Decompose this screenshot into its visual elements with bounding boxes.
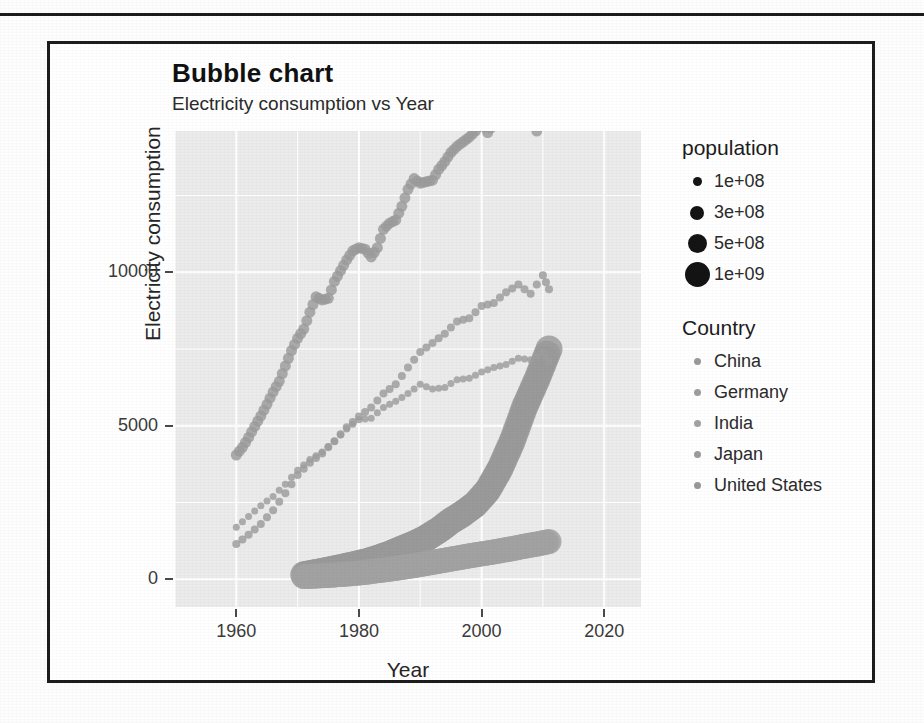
series-japan xyxy=(232,271,553,548)
x-tick-mark xyxy=(235,609,237,617)
x-tick-label: 2020 xyxy=(564,621,644,642)
population-dot-icon xyxy=(680,262,714,287)
legend-population: population 1e+083e+085e+081e+09 xyxy=(680,136,895,290)
y-tick-mark xyxy=(165,271,173,273)
y-tick-label: 0 xyxy=(70,568,158,589)
y-axis-title: Electricity consumption xyxy=(141,126,165,341)
legend-population-label: 1e+08 xyxy=(714,171,765,192)
legend-country-item[interactable]: Germany xyxy=(680,377,895,408)
x-tick-mark xyxy=(603,609,605,617)
population-dot-icon xyxy=(680,234,714,253)
x-tick-mark xyxy=(481,609,483,617)
legend-population-label: 3e+08 xyxy=(714,202,765,223)
x-tick-label: 2000 xyxy=(442,621,522,642)
legend-country-label: Germany xyxy=(714,382,788,403)
country-dot-icon xyxy=(680,451,714,458)
legend-country: Country ChinaGermanyIndiaJapanUnited Sta… xyxy=(680,316,895,501)
y-tick-label: 10000 xyxy=(70,261,158,282)
legend-population-label: 1e+09 xyxy=(714,264,765,285)
legend-population-item[interactable]: 1e+09 xyxy=(680,259,895,290)
legend-country-title: Country xyxy=(682,316,895,340)
legend-population-label: 5e+08 xyxy=(714,233,765,254)
page-title: Bubble chart xyxy=(172,58,333,89)
plot-panel xyxy=(175,131,641,607)
page-top-rule xyxy=(0,13,924,16)
country-dot-icon xyxy=(680,420,714,427)
legend-container: population 1e+083e+085e+081e+09 Country … xyxy=(680,136,895,501)
legend-country-item[interactable]: United States xyxy=(680,470,895,501)
legend-country-label: United States xyxy=(714,475,822,496)
legend-country-item[interactable]: China xyxy=(680,346,895,377)
country-dot-icon xyxy=(680,358,714,365)
country-dot-icon xyxy=(680,482,714,489)
x-tick-mark xyxy=(358,609,360,617)
x-tick-label: 1980 xyxy=(319,621,399,642)
legend-country-label: China xyxy=(714,351,761,372)
country-dot-icon xyxy=(680,389,714,396)
scanned-page: Bubble chart Electricity consumption vs … xyxy=(0,0,924,723)
legend-population-title: population xyxy=(682,136,895,160)
y-tick-mark xyxy=(165,425,173,427)
legend-population-item[interactable]: 3e+08 xyxy=(680,197,895,228)
legend-population-item[interactable]: 5e+08 xyxy=(680,228,895,259)
plot-area: Electricity consumption Year 0500010000 … xyxy=(175,131,641,607)
legend-country-label: India xyxy=(714,413,753,434)
figure-frame: Bubble chart Electricity consumption vs … xyxy=(47,41,875,683)
population-dot-icon xyxy=(680,206,714,220)
x-axis-title: Year xyxy=(175,658,641,682)
x-tick-label: 1960 xyxy=(196,621,276,642)
y-tick-label: 5000 xyxy=(70,415,158,436)
chart-subtitle: Electricity consumption vs Year xyxy=(172,93,434,115)
legend-population-item[interactable]: 1e+08 xyxy=(680,166,895,197)
scatter-plot-svg xyxy=(175,131,641,607)
population-dot-icon xyxy=(680,177,714,186)
y-tick-mark xyxy=(165,578,173,580)
legend-country-label: Japan xyxy=(714,444,763,465)
legend-country-item[interactable]: Japan xyxy=(680,439,895,470)
legend-country-item[interactable]: India xyxy=(680,408,895,439)
